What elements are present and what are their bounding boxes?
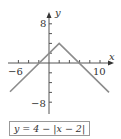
y-axis-arrow-icon: [47, 12, 52, 18]
y-axis-label: y: [55, 8, 61, 18]
equation-box: y = 4 − |x − 2|: [9, 121, 90, 136]
tick-label-8: 8: [40, 19, 46, 29]
x-axis-label: x: [109, 52, 115, 62]
tick-label-10: 10: [93, 67, 106, 77]
equation-label: y = 4 − |x − 2|: [14, 123, 85, 134]
tick-label-neg8: −8: [31, 99, 46, 109]
tick-label-neg6: −6: [8, 67, 23, 77]
